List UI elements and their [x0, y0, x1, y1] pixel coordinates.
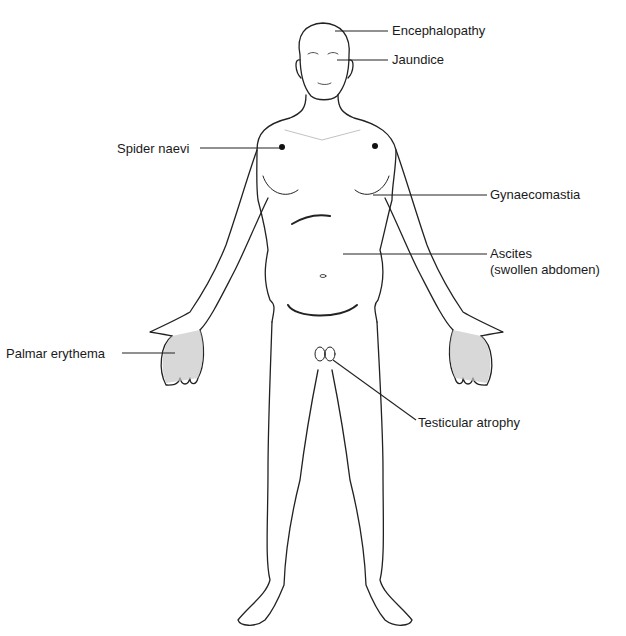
groin-curve [288, 305, 357, 316]
testis-left [315, 347, 325, 361]
left-arm [150, 150, 268, 336]
right-arm [385, 150, 503, 336]
label-spider-naevi: Spider naevi [117, 141, 189, 156]
leader-testicular-atrophy [333, 360, 416, 420]
torso-outline-right [338, 95, 396, 322]
right-palm-shade [450, 330, 491, 383]
testis-right [325, 347, 335, 361]
diagram-canvas: Encephalopathy Jaundice Spider naevi Gyn… [0, 0, 626, 636]
spider-naevus-left [279, 144, 285, 150]
head-outline [299, 23, 349, 100]
label-gynaecomastia: Gynaecomastia [490, 187, 580, 202]
left-palm-shade [163, 330, 204, 383]
spider-naevus-right [372, 143, 378, 149]
body-illustration [0, 0, 626, 636]
label-jaundice: Jaundice [392, 52, 444, 67]
label-palmar-erythema: Palmar erythema [6, 346, 105, 361]
torso-outline-left [257, 95, 306, 322]
lower-rib-curve [292, 215, 330, 224]
left-leg [238, 322, 318, 625]
label-testicular-atrophy: Testicular atrophy [418, 415, 520, 430]
label-encephalopathy: Encephalopathy [392, 23, 485, 38]
label-ascites-subtitle: (swollen abdomen) [490, 262, 600, 277]
label-ascites: Ascites [490, 246, 532, 261]
